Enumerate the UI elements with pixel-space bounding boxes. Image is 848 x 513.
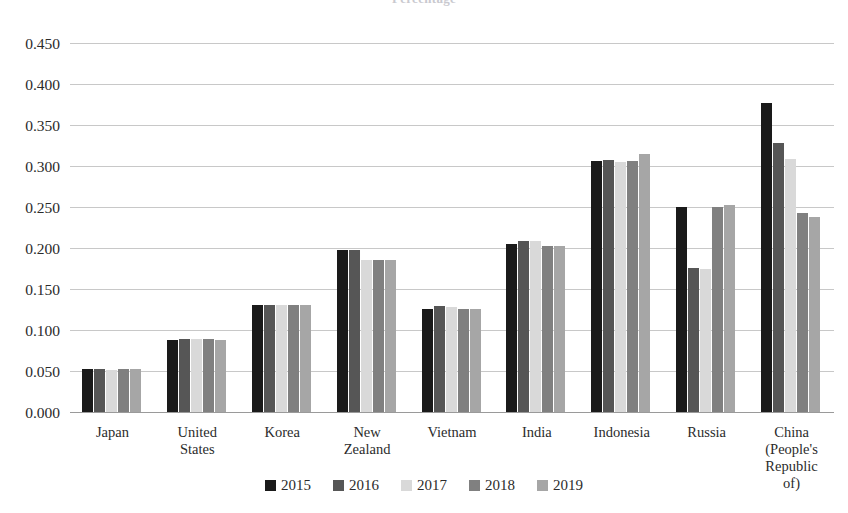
bar[interactable] [203,339,214,412]
bar[interactable] [809,217,820,412]
bar[interactable] [458,309,469,412]
legend-label: 2019 [553,477,583,494]
bar[interactable] [300,305,311,412]
y-axis-tick-label: 0.150 [0,282,60,298]
bar[interactable] [167,340,178,412]
bar-group [676,43,735,412]
bar[interactable] [785,159,796,412]
legend-label: 2015 [281,477,311,494]
y-axis-tick-label: 0.450 [0,36,60,52]
bar[interactable] [470,309,481,412]
bar[interactable] [518,241,529,412]
bar[interactable] [422,309,433,412]
bar[interactable] [591,161,602,412]
chart-title: Percentage [0,0,848,7]
legend-swatch-icon [469,480,480,491]
bar-group [82,43,141,412]
bar[interactable] [385,260,396,412]
bar[interactable] [252,305,263,412]
bar-group [252,43,311,412]
bar[interactable] [82,369,93,412]
bar[interactable] [639,154,650,412]
x-axis-category-label-line: States [147,441,248,458]
bar[interactable] [712,207,723,412]
bar[interactable] [94,369,105,412]
legend-swatch-icon [537,480,548,491]
bar[interactable] [676,207,687,412]
bar[interactable] [700,269,711,413]
legend-label: 2016 [349,477,379,494]
y-axis-tick-label: 0.350 [0,118,60,134]
gridline [70,412,834,413]
x-axis-category-label-line: China [741,424,842,441]
legend-label: 2018 [485,477,515,494]
bar[interactable] [215,340,226,412]
legend-label: 2017 [417,477,447,494]
bar[interactable] [615,162,626,412]
y-axis-tick-label: 0.300 [0,159,60,175]
y-axis-tick-label: 0.000 [0,405,60,421]
bar[interactable] [288,305,299,412]
bar[interactable] [506,244,517,412]
y-axis-tick-label: 0.200 [0,241,60,257]
bar-groups [70,43,834,412]
bar[interactable] [530,241,541,412]
legend-swatch-icon [265,480,276,491]
bar[interactable] [373,260,384,412]
bar[interactable] [627,161,638,412]
y-axis-tick-label: 0.400 [0,77,60,93]
bar-group [506,43,565,412]
legend-item[interactable]: 2018 [469,477,515,494]
legend-item[interactable]: 2017 [401,477,447,494]
y-axis-tick-label: 0.050 [0,364,60,380]
bar[interactable] [446,307,457,412]
bar[interactable] [773,143,784,412]
bar[interactable] [179,339,190,412]
bar-group [761,43,820,412]
legend-swatch-icon [401,480,412,491]
bar-chart: Percentage 0.4500.4000.3500.3000.2500.20… [0,0,848,513]
x-axis-category-label-line: (People's [741,441,842,458]
bar-group [591,43,650,412]
legend-item[interactable]: 2015 [265,477,311,494]
bar[interactable] [797,213,808,412]
x-axis-category-label-line: Republic [741,458,842,475]
bar[interactable] [349,250,360,412]
legend-item[interactable]: 2019 [537,477,583,494]
y-axis-tick-label: 0.250 [0,200,60,216]
bar[interactable] [761,103,772,412]
bar-group [422,43,481,412]
bar[interactable] [106,370,117,412]
bar[interactable] [542,246,553,412]
bar[interactable] [130,369,141,412]
y-axis-tick-label: 0.100 [0,323,60,339]
legend-item[interactable]: 2016 [333,477,379,494]
bar[interactable] [337,250,348,412]
chart-legend: 20152016201720182019 [0,477,848,494]
bar[interactable] [688,268,699,412]
bar[interactable] [554,246,565,412]
x-axis-category-label-line: Zealand [317,441,418,458]
legend-swatch-icon [333,480,344,491]
bar[interactable] [276,305,287,412]
bar-group [337,43,396,412]
bar[interactable] [118,369,129,412]
bar[interactable] [434,306,445,412]
bar[interactable] [603,160,614,412]
bar-group [167,43,226,412]
bar[interactable] [191,339,202,412]
bar[interactable] [264,305,275,412]
bar[interactable] [724,205,735,412]
bar[interactable] [361,260,372,412]
